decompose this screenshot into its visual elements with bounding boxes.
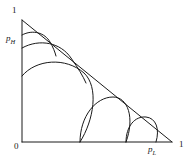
horizontal-axis-max-tick: 1	[179, 140, 184, 149]
hypotenuse-line	[22, 20, 172, 142]
indifference-curve-4	[80, 97, 130, 142]
vertical-axis-max-tick: 1	[12, 6, 17, 15]
diagram-canvas	[0, 0, 195, 162]
indifference-curve-5	[126, 117, 158, 142]
ph-subscript: H	[11, 38, 16, 45]
origin-tick: 0	[14, 142, 19, 151]
horizontal-axis-variable-label: pL	[148, 145, 156, 156]
vertical-axis-variable-label: pH	[6, 34, 15, 45]
indifference-curve-3	[22, 62, 93, 142]
pl-subscript: L	[153, 149, 157, 156]
indifference-curve-diagram: 1 0 1 pH pL	[0, 0, 195, 162]
